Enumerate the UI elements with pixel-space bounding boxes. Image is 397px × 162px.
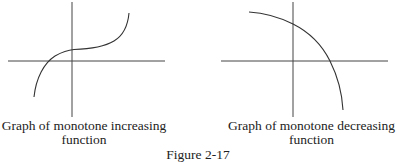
increasing-caption-line2: function (0, 133, 168, 147)
decreasing-caption: Graph of monotone decreasing function (228, 119, 395, 147)
decreasing-caption-line1: Graph of monotone decreasing (228, 119, 395, 133)
decreasing-graph (221, 2, 388, 117)
increasing-curve (34, 13, 129, 97)
increasing-caption: Graph of monotone increasing function (0, 119, 168, 147)
decreasing-caption-line2: function (228, 133, 395, 147)
figure-label: Figure 2-17 (150, 147, 246, 162)
increasing-caption-line1: Graph of monotone increasing (0, 119, 168, 133)
increasing-graph (8, 2, 165, 117)
